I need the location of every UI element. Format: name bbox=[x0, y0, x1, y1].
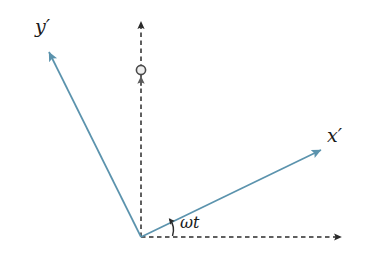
y-prime-axis bbox=[49, 52, 141, 237]
x-prime-axis bbox=[141, 150, 321, 237]
y-prime-axis-label: y′ bbox=[35, 17, 50, 36]
vector-diagram-figure: y′ x′ ωt bbox=[0, 0, 374, 263]
x-prime-axis-label: x′ bbox=[327, 126, 342, 145]
omega-vector-circle-icon bbox=[136, 65, 145, 74]
omega-t-angle-label: ωt bbox=[180, 215, 199, 231]
